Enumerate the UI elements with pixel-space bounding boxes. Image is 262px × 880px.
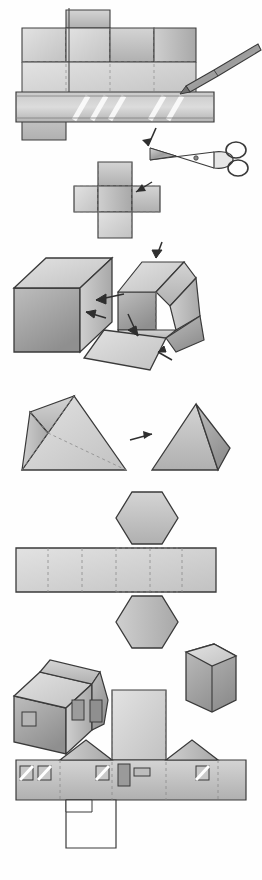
cut-arrow (142, 128, 156, 146)
panel-cube-net (74, 162, 160, 238)
finished-cube (14, 258, 112, 352)
tetrahedron (152, 404, 230, 470)
illustration-sheet: Paper Model Nets and Folded Solids (0, 0, 262, 880)
scissors (150, 142, 248, 176)
cube-net (74, 162, 160, 238)
triangle-net (22, 396, 126, 470)
panel-folding-cube (14, 242, 204, 370)
paper-model-illustration (0, 0, 262, 880)
hexagonal-prism (186, 644, 236, 712)
panel-tetrahedron (22, 396, 230, 470)
hexagonal-prism-net (16, 492, 216, 648)
fold-arrow-tetra (130, 431, 152, 440)
paper-house (14, 660, 108, 754)
ruler (16, 92, 214, 122)
panel-cutting-the-net (16, 8, 261, 176)
